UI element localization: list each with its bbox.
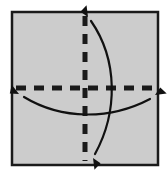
- fold-diagram-canvas: [0, 0, 167, 173]
- fold-diagram-figure: Square sheet with vertical and horizonta…: [0, 0, 167, 173]
